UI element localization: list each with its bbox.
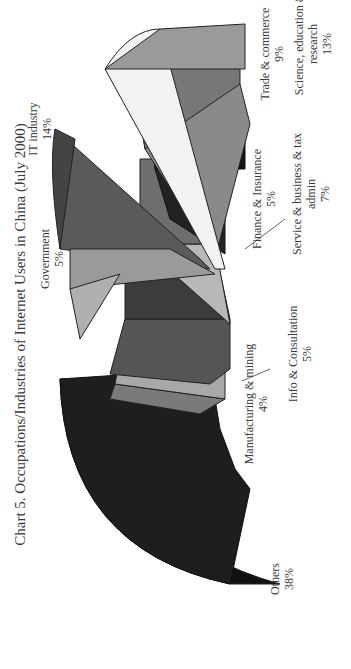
label-trade: Trade & commerce 9% — [258, 0, 286, 114]
label-service: Service & business & tax admin 7% — [290, 114, 332, 274]
label-info-consultation: Info & Consultation 5% — [286, 289, 314, 419]
label-science: Science, education & research 13% — [292, 0, 334, 104]
rotated-chart-frame: Chart 5. Occupations/Industries of Inter… — [0, 0, 351, 669]
label-it: IT industry 14% — [26, 84, 54, 174]
label-manufacturing: Manufacturing & mining 4% — [242, 334, 270, 474]
label-finance: Finance & Insurance 5% — [250, 129, 278, 269]
label-others: Others 38% — [268, 549, 296, 609]
chart-page: Chart 5. Occupations/Industries of Inter… — [0, 0, 351, 669]
label-government: Government 5% — [38, 219, 66, 299]
